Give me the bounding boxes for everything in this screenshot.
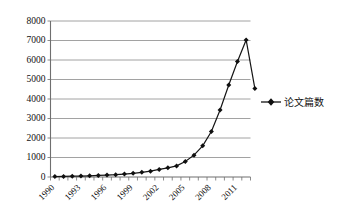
y-axis-tick-label: 8000 xyxy=(27,16,46,26)
chart-canvas: 010002000300040005000600070008000 199019… xyxy=(0,0,343,211)
y-axis-tick-label: 4000 xyxy=(27,94,46,104)
y-axis-tick-labels: 010002000300040005000600070008000 xyxy=(27,16,46,182)
y-axis-tick-label: 2000 xyxy=(27,133,46,143)
y-axis-tick-label: 0 xyxy=(41,172,46,182)
y-axis-tick-label: 5000 xyxy=(27,74,46,84)
y-axis-tick-label: 6000 xyxy=(27,55,46,65)
legend-label-papers: 论文篇数 xyxy=(284,96,324,108)
line-chart: 010002000300040005000600070008000 199019… xyxy=(0,0,343,211)
y-axis-tick-label: 1000 xyxy=(27,152,46,162)
y-axis-tick-label: 7000 xyxy=(27,35,46,45)
y-axis-tick-label: 3000 xyxy=(27,113,46,123)
